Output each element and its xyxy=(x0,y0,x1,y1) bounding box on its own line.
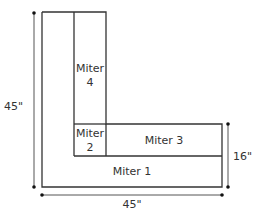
miter-1-label: Miter 1 xyxy=(113,165,152,178)
miter-2-label: Miter xyxy=(76,127,105,140)
dim-dot xyxy=(32,11,36,15)
dim-dot xyxy=(40,193,44,197)
height-dimension-label: 45" xyxy=(4,100,23,113)
width-dimension-label: 45" xyxy=(122,198,141,211)
dim-dot xyxy=(226,185,230,189)
dim-dot xyxy=(226,122,230,126)
l-shape-diagram: Miter 4 Miter 2 Miter 3 Miter 1 45" 45" … xyxy=(0,0,262,221)
dim-dot xyxy=(220,193,224,197)
dim-dot xyxy=(32,185,36,189)
l-outline xyxy=(42,12,222,187)
depth-dimension-label: 16" xyxy=(233,150,252,163)
miter-4-label: Miter xyxy=(76,62,105,75)
miter-4-number: 4 xyxy=(87,76,94,89)
miter-2-number: 2 xyxy=(87,141,94,154)
miter-3-label: Miter 3 xyxy=(145,134,184,147)
